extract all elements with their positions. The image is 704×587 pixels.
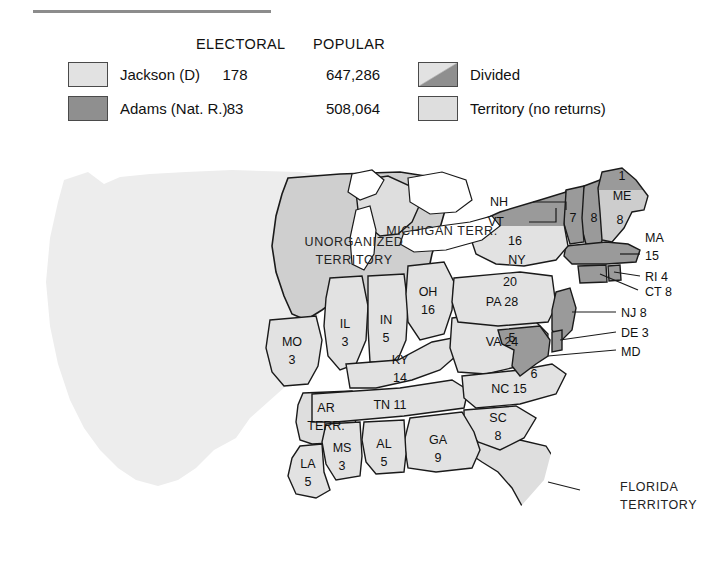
label-ky: KY (392, 353, 409, 367)
label-ct: CT 8 (645, 285, 672, 299)
label-de: DE 3 (621, 326, 649, 340)
label-la: LA (300, 457, 316, 471)
legend-swatch-divided (418, 62, 458, 87)
state-oh (406, 262, 454, 340)
state-mo (266, 316, 322, 386)
label-md: MD (621, 345, 640, 359)
label-md-electoral-jackson: 5 (509, 331, 516, 345)
label-vt-electoral: 7 (570, 211, 577, 225)
label-ky-electoral: 14 (393, 371, 407, 385)
legend-electoral-jackson: 178 (196, 62, 274, 87)
label-vt: VT (488, 215, 504, 229)
label-ga: GA (429, 433, 448, 447)
label-mo-electoral: 3 (289, 353, 296, 367)
label-sc: SC (489, 411, 506, 425)
label-ms-electoral: 3 (339, 459, 346, 473)
label-arkansas-territory-1: AR (317, 401, 334, 415)
label-ny-electoral-jackson: 20 (503, 275, 517, 289)
label-unorganized-territory-2: TERRITORY (315, 253, 392, 267)
label-ri: RI 4 (645, 270, 668, 284)
label-nj: NJ 8 (621, 306, 647, 320)
label-al-electoral: 5 (381, 455, 388, 469)
label-in-electoral: 5 (383, 331, 390, 345)
legend-popular-jackson: 647,286 (305, 62, 401, 87)
legend-column-popular: POPULAR (313, 36, 385, 52)
label-me-electoral-jackson: 8 (617, 213, 624, 227)
label-arkansas-territory-2: TERR. (307, 419, 345, 433)
label-florida-territory-2: TERRITORY (620, 498, 697, 512)
label-florida-territory-1: FLORIDA (620, 480, 678, 494)
label-me: ME (613, 189, 632, 203)
label-il: IL (340, 317, 350, 331)
label-la-electoral: 5 (305, 475, 312, 489)
legend-swatch-territory (418, 96, 458, 121)
label-nh-electoral: 8 (591, 211, 598, 225)
label-sc-electoral: 8 (495, 429, 502, 443)
label-oh: OH (419, 285, 438, 299)
label-il-electoral: 3 (342, 335, 349, 349)
state-ma (564, 242, 640, 264)
label-me-electoral-adams: 1 (619, 169, 626, 183)
label-mo: MO (282, 335, 302, 349)
legend-swatch-adams (68, 96, 108, 121)
electoral-map: UNORGANIZED TERRITORY MICHIGAN TERR. AR … (0, 150, 704, 587)
legend-label-divided: Divided (470, 62, 520, 87)
label-ms: MS (333, 441, 352, 455)
label-oh-electoral: 16 (421, 303, 435, 317)
label-ma-electoral: 15 (645, 249, 659, 263)
header-divider-rule (33, 10, 271, 13)
label-md-electoral-adams: 6 (531, 367, 538, 381)
legend-popular-adams: 508,064 (305, 96, 401, 121)
label-ga-electoral: 9 (435, 451, 442, 465)
legend-label-jackson: Jackson (D) (120, 62, 200, 87)
label-tn: TN 11 (373, 398, 406, 412)
state-ct (578, 265, 607, 283)
label-ny: NY (508, 253, 526, 267)
legend-column-electoral: ELECTORAL (196, 36, 286, 52)
legend-row-adams: Adams (Nat. R.) 83 508,064 Territory (no… (0, 96, 704, 122)
legend-electoral-adams: 83 (196, 96, 274, 121)
legend-swatch-jackson (68, 62, 108, 87)
label-pa: PA 28 (486, 295, 518, 309)
label-ma: MA (645, 231, 664, 245)
label-michigan-territory: MICHIGAN TERR. (386, 224, 498, 238)
label-nh: NH (490, 195, 508, 209)
legend-label-territory: Territory (no returns) (470, 96, 606, 121)
map-legend: ELECTORAL POPULAR Jackson (D) 178 647,28… (0, 34, 704, 144)
legend-row-jackson: Jackson (D) 178 647,286 Divided (0, 62, 704, 88)
label-ny-electoral-adams: 16 (508, 234, 522, 248)
label-nc: NC 15 (491, 382, 526, 396)
state-de (552, 330, 562, 352)
label-al: AL (376, 437, 391, 451)
label-in: IN (380, 313, 393, 327)
map-svg: UNORGANIZED TERRITORY MICHIGAN TERR. AR … (0, 150, 704, 587)
